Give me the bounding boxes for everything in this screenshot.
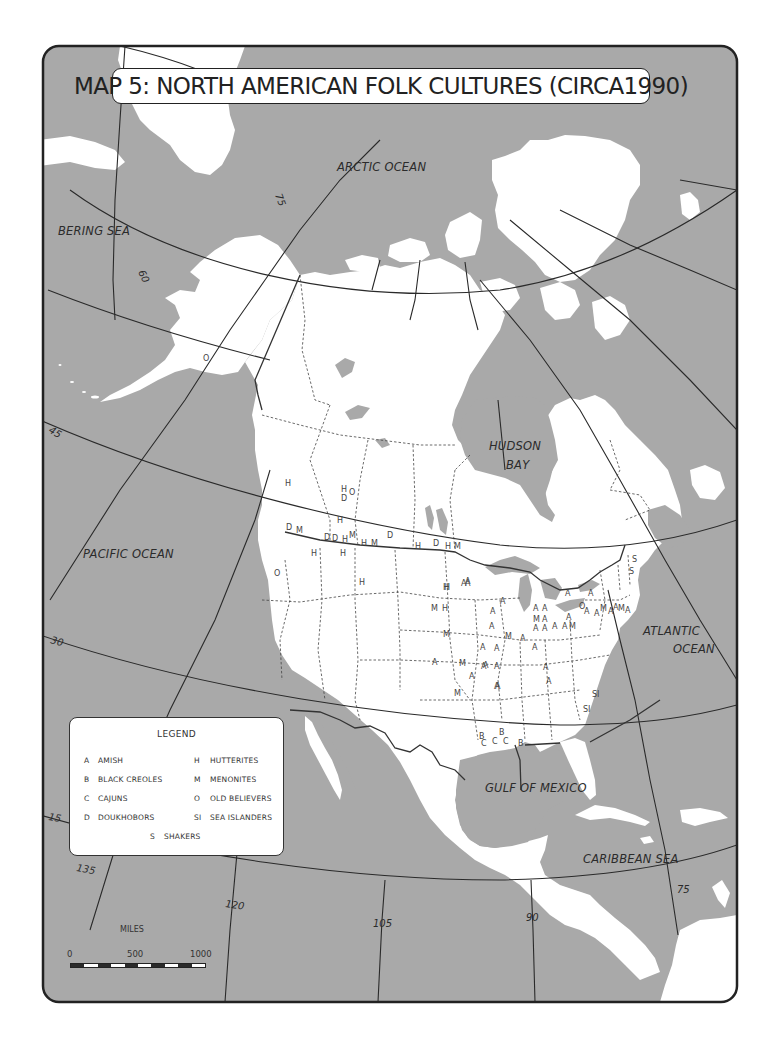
culture-marker-h: H bbox=[443, 583, 449, 592]
culture-marker-a: A bbox=[566, 613, 572, 622]
scale-tick-500: 500 bbox=[127, 949, 143, 959]
water-label-hudson1: HUDSON bbox=[489, 439, 541, 453]
culture-marker-a: A bbox=[490, 607, 496, 616]
culture-marker-a: A bbox=[584, 607, 590, 616]
culture-marker-m: M bbox=[459, 659, 466, 668]
map-title-box: MAP 5: NORTH AMERICAN FOLK CULTURES (CIR… bbox=[112, 68, 650, 104]
culture-marker-d: D bbox=[341, 494, 347, 503]
legend-item-doukhobors: D DOUKHOBORS bbox=[84, 813, 155, 822]
culture-marker-a: A bbox=[494, 662, 500, 671]
legend-label: DOUKHOBORS bbox=[98, 813, 155, 822]
water-label-atlantic1: ATLANTIC bbox=[642, 624, 700, 638]
legend-code: S bbox=[150, 832, 164, 841]
culture-marker-a: A bbox=[500, 597, 506, 606]
culture-marker-h: H bbox=[442, 604, 448, 613]
culture-marker-m: M bbox=[600, 604, 607, 613]
culture-marker-m: M bbox=[349, 531, 356, 540]
culture-marker-o: O bbox=[349, 488, 355, 497]
culture-marker-a: A bbox=[552, 622, 558, 631]
legend-title: LEGEND bbox=[70, 729, 283, 739]
water-label-gulf: GULF OF MEXICO bbox=[485, 781, 587, 795]
culture-marker-a: A bbox=[520, 634, 526, 643]
water-label-hudson2: BAY bbox=[506, 458, 530, 472]
culture-marker-a: A bbox=[483, 661, 489, 670]
water-label-bering: BERING SEA bbox=[58, 224, 130, 238]
legend-item-black-creoles: B BLACK CREOLES bbox=[84, 775, 162, 784]
graticule-label: 75 bbox=[677, 884, 690, 895]
culture-marker-a: A bbox=[494, 644, 500, 653]
culture-marker-m: M bbox=[569, 622, 576, 631]
scale-title: MILES bbox=[120, 925, 144, 934]
culture-marker-d: D bbox=[324, 533, 330, 542]
culture-marker-c: C bbox=[481, 739, 487, 748]
culture-marker-m: M bbox=[371, 539, 378, 548]
culture-marker-a: A bbox=[625, 606, 631, 615]
culture-marker-m: M bbox=[296, 526, 303, 535]
culture-marker-a: A bbox=[542, 615, 548, 624]
culture-marker-m: M bbox=[431, 604, 438, 613]
culture-marker-c: C bbox=[503, 737, 509, 746]
legend-code: M bbox=[194, 775, 210, 784]
scale-bar-graphic bbox=[70, 963, 206, 968]
legend-item-menonites: M MENONITES bbox=[194, 775, 256, 784]
culture-marker-o: O bbox=[274, 569, 280, 578]
legend-code: C bbox=[84, 794, 98, 803]
culture-marker-h: H bbox=[285, 479, 291, 488]
culture-marker-d: D bbox=[433, 539, 439, 548]
culture-marker-m: M bbox=[454, 542, 461, 551]
culture-marker-a: A bbox=[494, 682, 500, 691]
culture-marker-m: M bbox=[505, 632, 512, 641]
map-canvas: ARCTIC OCEANBERING SEAHUDSONBAYPACIFIC O… bbox=[0, 0, 760, 1049]
culture-marker-h: H bbox=[341, 485, 347, 494]
legend-code: O bbox=[194, 794, 210, 803]
legend-label: SHAKERS bbox=[164, 832, 201, 841]
scale-bar: MILES 0 500 1000 bbox=[62, 923, 222, 973]
legend-label: HUTTERITES bbox=[210, 756, 258, 765]
graticule-label: 15 bbox=[48, 811, 62, 824]
water-label-arctic: ARCTIC OCEAN bbox=[336, 160, 426, 174]
culture-marker-a: A bbox=[543, 663, 549, 672]
legend-label: MENONITES bbox=[210, 775, 256, 784]
culture-marker-b: B bbox=[499, 728, 505, 737]
culture-marker-a: A bbox=[546, 677, 552, 686]
legend-code: B bbox=[84, 775, 98, 784]
legend-label: BLACK CREOLES bbox=[98, 775, 162, 784]
culture-marker-o: O bbox=[203, 354, 209, 363]
legend-item-cajuns: C CAJUNS bbox=[84, 794, 128, 803]
culture-marker-h: H bbox=[337, 516, 343, 525]
culture-marker-a: A bbox=[489, 622, 495, 631]
legend-box: LEGEND A AMISH B BLACK CREOLES C CAJUNS … bbox=[69, 717, 284, 856]
culture-marker-d: D bbox=[332, 534, 338, 543]
culture-marker-a: A bbox=[588, 589, 594, 598]
legend-item-shakers: S SHAKERS bbox=[150, 832, 201, 841]
culture-marker-m: M bbox=[443, 630, 450, 639]
graticule-label: 90 bbox=[526, 912, 539, 923]
culture-marker-h: H bbox=[359, 578, 365, 587]
legend-item-sea-islanders: SI SEA ISLANDERS bbox=[194, 813, 272, 822]
legend-code: A bbox=[84, 756, 98, 765]
water-label-atlantic2: OCEAN bbox=[673, 642, 715, 656]
culture-marker-m: M bbox=[618, 604, 625, 613]
culture-marker-h: H bbox=[342, 535, 348, 544]
culture-marker-b: B bbox=[518, 739, 524, 748]
culture-marker-h: H bbox=[445, 542, 451, 551]
legend-item-amish: A AMISH bbox=[84, 756, 123, 765]
culture-marker-s: S bbox=[632, 555, 637, 564]
legend-label: OLD BELIEVERS bbox=[210, 794, 272, 803]
culture-marker-a: A bbox=[480, 643, 486, 652]
culture-marker-d: D bbox=[387, 531, 393, 540]
culture-marker-a: A bbox=[533, 604, 539, 613]
water-label-pacific: PACIFIC OCEAN bbox=[83, 547, 174, 561]
culture-marker-m: M bbox=[533, 615, 540, 624]
culture-marker-si: SI bbox=[583, 705, 590, 714]
culture-marker-a: A bbox=[469, 672, 475, 681]
culture-marker-a: A bbox=[562, 622, 568, 631]
culture-marker-m: M bbox=[454, 689, 461, 698]
legend-code: SI bbox=[194, 813, 210, 822]
culture-marker-a: A bbox=[461, 579, 467, 588]
culture-marker-h: H bbox=[415, 542, 421, 551]
culture-marker-a: A bbox=[532, 643, 538, 652]
culture-marker-a: A bbox=[533, 624, 539, 633]
culture-marker-h: H bbox=[340, 549, 346, 558]
culture-marker-d: D bbox=[286, 523, 292, 532]
